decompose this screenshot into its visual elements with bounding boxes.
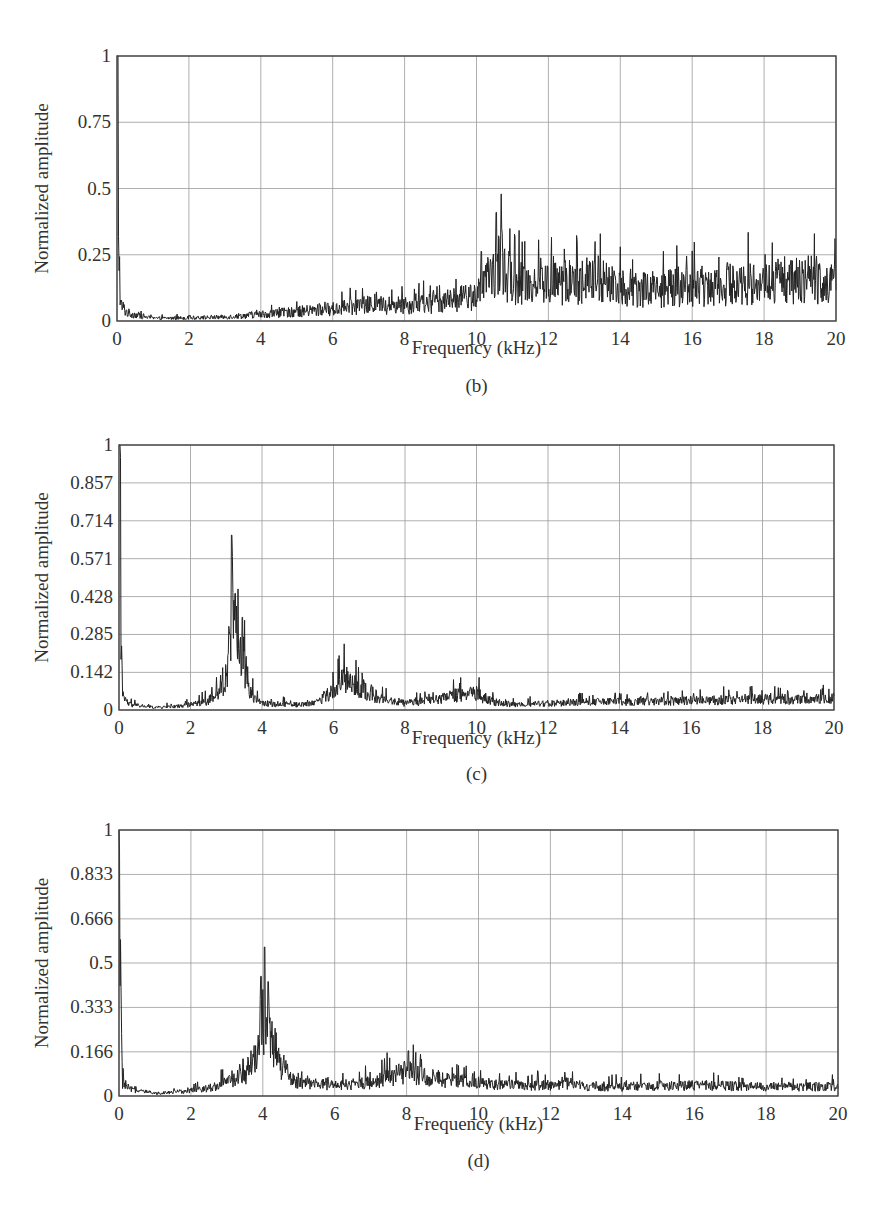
x-tick-label: 16 <box>685 1103 704 1124</box>
y-tick-label: 0.333 <box>70 996 113 1017</box>
y-tick-label: 0.833 <box>70 863 113 884</box>
x-tick-label: 8 <box>402 1103 412 1124</box>
y-tick-label: 0.666 <box>70 908 113 929</box>
x-tick-label: 18 <box>757 1103 776 1124</box>
chart-panel-d: 0246810121416182000.1660.3330.50.6660.83… <box>0 0 877 1212</box>
gridlines <box>119 830 838 1096</box>
x-tick-label: 20 <box>829 1103 848 1124</box>
y-tick-label: 0.5 <box>89 952 113 973</box>
y-tick-label: 0 <box>104 1085 114 1106</box>
x-tick-label: 2 <box>186 1103 196 1124</box>
x-tick-label: 12 <box>541 1103 560 1124</box>
panel-label: (d) <box>467 1150 489 1172</box>
chart-d: 0246810121416182000.1660.3330.50.6660.83… <box>0 0 877 1212</box>
x-tick-label: 0 <box>114 1103 124 1124</box>
x-axis-label: Frequency (kHz) <box>414 1113 543 1135</box>
x-tick-label: 6 <box>330 1103 340 1124</box>
y-axis-label: Normalized amplitude <box>31 878 52 1048</box>
y-tick-label: 0.166 <box>70 1041 113 1062</box>
y-tick-label: 1 <box>104 819 114 840</box>
x-tick-label: 14 <box>613 1103 633 1124</box>
x-tick-label: 4 <box>258 1103 268 1124</box>
